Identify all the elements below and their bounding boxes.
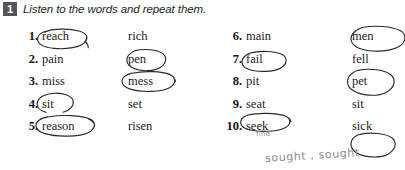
- word-option-a[interactable]: sit: [42, 96, 54, 112]
- word-option-a[interactable]: fail: [246, 51, 263, 67]
- exercise-instruction: Listen to the words and repeat them.: [23, 2, 206, 16]
- word-option-b[interactable]: men: [352, 28, 374, 44]
- word-option-a[interactable]: main: [246, 28, 271, 44]
- word-column-right: 6. main men 7. fail fell 8. pit pet 9. s…: [200, 28, 405, 141]
- word-option-b[interactable]: set: [128, 96, 142, 112]
- item-number: 5.: [10, 118, 38, 134]
- word-row: 10. seek sick: [200, 118, 405, 141]
- item-number: 3.: [10, 73, 38, 89]
- word-option-a[interactable]: reach: [42, 28, 69, 44]
- word-row: 1. reach rich: [0, 28, 200, 51]
- word-row: 6. main men: [200, 28, 405, 51]
- word-row: 4. sit set: [0, 96, 200, 119]
- handwritten-note-sought: sought , sought: [265, 146, 361, 165]
- item-number: 10.: [214, 118, 242, 134]
- exercise-number-badge: 1: [3, 2, 17, 16]
- word-row: 7. fail fell: [200, 51, 405, 74]
- word-option-b[interactable]: risen: [128, 118, 152, 134]
- word-row: 9. seat sit: [200, 96, 405, 119]
- item-number: 8.: [214, 73, 242, 89]
- word-option-b[interactable]: fell: [352, 51, 369, 67]
- word-row: 2. pain pen: [0, 51, 200, 74]
- word-option-a[interactable]: miss: [42, 73, 65, 89]
- word-option-b[interactable]: pen: [128, 51, 146, 67]
- word-row: 5. reason risen: [0, 118, 200, 141]
- word-option-b[interactable]: pet: [352, 73, 367, 89]
- word-option-a[interactable]: pain: [42, 51, 64, 67]
- word-option-b[interactable]: sit: [352, 96, 364, 112]
- word-option-a[interactable]: reason: [42, 118, 75, 134]
- word-option-b[interactable]: mess: [128, 73, 153, 89]
- item-number: 9.: [214, 96, 242, 112]
- word-option-b[interactable]: rich: [128, 28, 147, 44]
- item-number: 6.: [214, 28, 242, 44]
- item-number: 1.: [10, 28, 38, 44]
- word-row: 8. pit pet: [200, 73, 405, 96]
- word-option-b[interactable]: sick: [352, 118, 372, 134]
- item-number: 4.: [10, 96, 38, 112]
- word-option-a[interactable]: pit: [246, 73, 259, 89]
- worksheet-page: 1 Listen to the words and repeat them. 1…: [0, 0, 405, 170]
- word-column-left: 1. reach rich 2. pain pen 3. miss mess 4…: [0, 28, 200, 141]
- word-option-a[interactable]: seat: [246, 96, 265, 112]
- word-row: 3. miss mess: [0, 73, 200, 96]
- exercise-header: 1 Listen to the words and repeat them.: [3, 2, 206, 16]
- item-number: 7.: [214, 51, 242, 67]
- handwritten-note-find: find: [256, 130, 271, 139]
- item-number: 2.: [10, 51, 38, 67]
